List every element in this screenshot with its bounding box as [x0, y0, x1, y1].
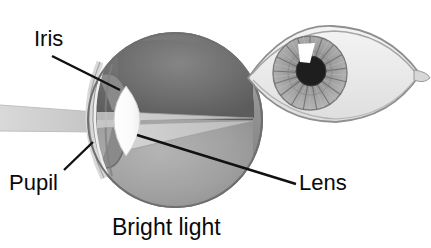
- eye-cross-section-icon: [88, 30, 262, 212]
- light-beam-icon: [0, 105, 96, 132]
- label-pupil: Pupil: [9, 172, 58, 194]
- label-lens: Lens: [299, 172, 347, 194]
- label-iris: Iris: [34, 28, 63, 50]
- eye-diagram-svg: [0, 0, 431, 248]
- eye-front-view-icon: [248, 26, 430, 122]
- figure-caption: Bright light: [112, 216, 221, 239]
- eye-anatomy-figure: Iris Pupil Lens Bright light: [0, 0, 431, 248]
